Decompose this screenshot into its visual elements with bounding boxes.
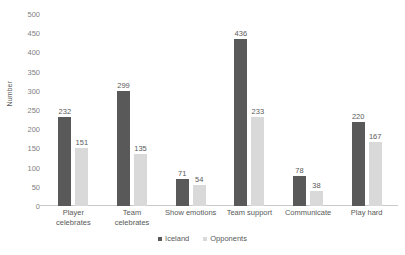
y-axis-tick-label: 350 — [18, 67, 40, 76]
y-axis-title: Number — [6, 93, 13, 107]
bar-opponents[interactable] — [75, 148, 88, 206]
bar-iceland[interactable] — [117, 91, 130, 206]
x-axis-category-labels: Player celebratesTeam celebratesShow emo… — [44, 208, 396, 227]
legend-item-iceland[interactable]: Iceland — [158, 234, 189, 243]
bar-item[interactable]: 38 — [310, 14, 323, 206]
bar-value-label: 38 — [312, 181, 320, 190]
bar-groups: 23215129913571544362337838220167 — [44, 14, 396, 206]
bar-iceland[interactable] — [176, 179, 189, 206]
bar-group: 220167 — [337, 14, 396, 206]
bar-group: 436233 — [220, 14, 279, 206]
bar-iceland[interactable] — [352, 122, 365, 206]
y-axis-tick-label: 450 — [18, 29, 40, 38]
bar-value-label: 299 — [117, 81, 130, 90]
legend-label: Opponents — [210, 234, 247, 243]
legend-item-opponents[interactable]: Opponents — [203, 234, 247, 243]
bar-value-label: 436 — [235, 29, 248, 38]
x-axis-category-label: Show emotions — [161, 208, 220, 227]
bar-value-label: 233 — [252, 107, 265, 116]
bar-group: 7838 — [279, 14, 338, 206]
bar-item[interactable]: 71 — [176, 14, 189, 206]
bar-opponents[interactable] — [369, 142, 382, 206]
y-axis-tick-label: 200 — [18, 125, 40, 134]
bar-group: 7154 — [161, 14, 220, 206]
bar-opponents[interactable] — [134, 154, 147, 206]
bar-item[interactable]: 78 — [293, 14, 306, 206]
bar-item[interactable]: 135 — [134, 14, 147, 206]
y-axis-tick-label: 300 — [18, 86, 40, 95]
x-axis-category-label: Team celebrates — [103, 208, 162, 227]
bar-item[interactable]: 220 — [352, 14, 365, 206]
bar-chart: Number 050100150200250300350400450500 23… — [0, 0, 405, 255]
legend-swatch-icon — [203, 237, 207, 241]
bar-iceland[interactable] — [293, 176, 306, 206]
x-axis-category-label: Communicate — [279, 208, 338, 227]
bar-item[interactable]: 436 — [234, 14, 247, 206]
bar-value-label: 54 — [195, 175, 203, 184]
bar-value-label: 135 — [134, 144, 147, 153]
y-axis-tick-label: 150 — [18, 144, 40, 153]
y-axis-tick-label: 50 — [18, 182, 40, 191]
bar-item[interactable]: 233 — [251, 14, 264, 206]
x-axis-category-label: Play hard — [337, 208, 396, 227]
y-axis-tick-labels: 050100150200250300350400450500 — [14, 14, 40, 206]
x-axis-category-label: Team support — [220, 208, 279, 227]
y-axis-tick-label: 250 — [18, 106, 40, 115]
y-axis-tick-label: 500 — [18, 10, 40, 19]
bar-value-label: 71 — [178, 169, 186, 178]
legend-swatch-icon — [158, 237, 162, 241]
bar-item[interactable]: 151 — [75, 14, 88, 206]
bar-item[interactable]: 167 — [369, 14, 382, 206]
bar-opponents[interactable] — [310, 191, 323, 206]
bar-item[interactable]: 299 — [117, 14, 130, 206]
y-axis-tick-label: 100 — [18, 163, 40, 172]
bar-group: 232151 — [44, 14, 103, 206]
bar-iceland[interactable] — [58, 117, 71, 206]
x-axis-category-label: Player celebrates — [44, 208, 103, 227]
bar-value-label: 78 — [295, 166, 303, 175]
bar-item[interactable]: 54 — [193, 14, 206, 206]
bar-iceland[interactable] — [234, 39, 247, 206]
bar-group: 299135 — [103, 14, 162, 206]
y-axis-tick-label: 0 — [18, 202, 40, 211]
bar-opponents[interactable] — [251, 117, 264, 206]
bar-value-label: 151 — [76, 138, 89, 147]
y-axis-tick-label: 400 — [18, 48, 40, 57]
bar-value-label: 232 — [59, 107, 72, 116]
bar-value-label: 220 — [352, 112, 365, 121]
legend-label: Iceland — [165, 234, 189, 243]
chart-legend: IcelandOpponents — [0, 234, 405, 243]
bar-value-label: 167 — [369, 132, 382, 141]
bar-item[interactable]: 232 — [58, 14, 71, 206]
bar-opponents[interactable] — [193, 185, 206, 206]
